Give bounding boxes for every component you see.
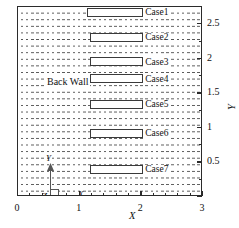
y-tick-major [197, 58, 202, 59]
y-tick-label: 1.5 [207, 87, 220, 97]
coordinate-triad: Y X Z [40, 159, 102, 196]
y-tick-major [197, 23, 202, 24]
case-block [90, 33, 144, 42]
case-label: Case1 [144, 8, 169, 18]
case-block [90, 57, 144, 66]
x-axis-title: X [129, 211, 135, 221]
triad-z-box [50, 189, 59, 196]
y-tick-major [197, 92, 202, 93]
case-label: Case4 [144, 75, 169, 85]
case-label: Case2 [144, 33, 169, 43]
y-tick-minor [199, 144, 202, 145]
y-tick-minor [199, 110, 202, 111]
figure-container: Case1Case2Case3Case4Case5Case6Case7 Back… [0, 0, 239, 228]
x-tick-major [202, 191, 203, 196]
case-label: Case5 [144, 100, 169, 110]
x-tick-label: 0 [7, 203, 27, 213]
x-tick-label: 1 [69, 203, 89, 213]
y-tick-label: 2.5 [207, 18, 220, 28]
y-tick-minor [199, 41, 202, 42]
y-axis-title: Y [226, 104, 237, 110]
y-tick-minor [199, 75, 202, 76]
y-tick-major [197, 127, 202, 128]
y-tick-minor [199, 6, 202, 7]
triad-y-label: Y [46, 154, 51, 163]
y-tick-major [197, 161, 202, 162]
case-block [87, 8, 143, 17]
case-label: Case6 [144, 129, 169, 139]
y-tick-label: 2 [207, 53, 212, 63]
y-tick-major [197, 196, 202, 197]
back-wall-label: Back Wall [46, 77, 90, 87]
y-tick-label: 0.5 [207, 156, 220, 166]
case-block [90, 100, 144, 109]
case-block [90, 74, 144, 83]
y-tick-label: 1 [207, 122, 212, 132]
x-tick-label: 3 [192, 203, 212, 213]
y-tick-minor [199, 179, 202, 180]
case-block [90, 129, 144, 138]
case-label: Case3 [144, 58, 169, 68]
triad-y-arrowhead [46, 163, 55, 171]
case-label: Case7 [144, 165, 169, 175]
